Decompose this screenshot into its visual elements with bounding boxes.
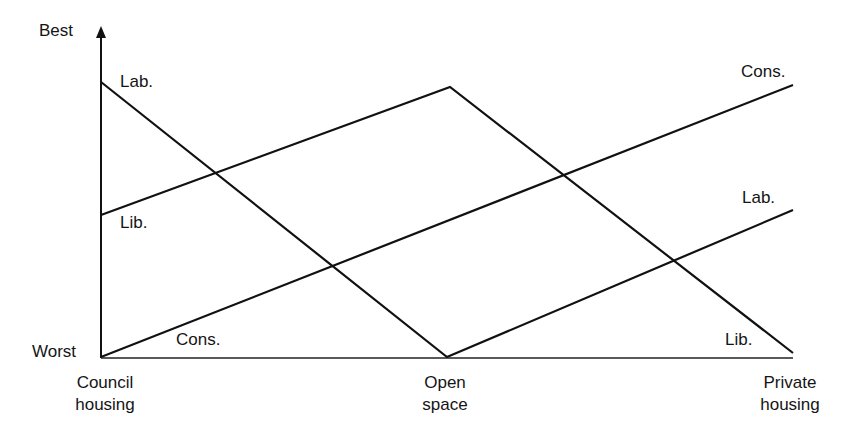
x-label-private-housing: Private housing xyxy=(746,372,834,416)
x-label-line: Open xyxy=(405,372,485,394)
line-cons xyxy=(101,85,793,357)
x-label-line: housing xyxy=(62,394,148,416)
series-label-cons-end: Cons. xyxy=(741,62,785,82)
x-label-line: space xyxy=(405,394,485,416)
x-label-line: Council xyxy=(62,372,148,394)
x-label-council-housing: Council housing xyxy=(62,372,148,416)
x-label-line: Private xyxy=(746,372,834,394)
x-label-open-space: Open space xyxy=(405,372,485,416)
y-axis-arrow-icon xyxy=(96,26,106,38)
series-label-cons-start: Cons. xyxy=(176,330,220,350)
x-label-line: housing xyxy=(746,394,834,416)
series-label-lab-start: Lab. xyxy=(120,72,153,92)
series-label-lib-end: Lib. xyxy=(725,330,752,350)
series-label-lib-start: Lib. xyxy=(120,213,147,233)
y-label-worst: Worst xyxy=(32,342,76,362)
y-label-best: Best xyxy=(39,21,73,41)
series-label-lab-end: Lab. xyxy=(742,188,775,208)
